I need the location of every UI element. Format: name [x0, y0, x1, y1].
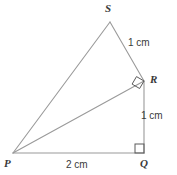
segment-PS	[13, 22, 110, 153]
measure-label-SR: 1 cm	[128, 38, 150, 48]
segment-SR	[110, 22, 144, 81]
vertex-label-S: S	[105, 3, 111, 14]
right-angle-marker-Q	[135, 144, 144, 153]
measure-label-PQ: 2 cm	[66, 160, 88, 170]
segment-PR	[13, 81, 144, 153]
vertex-label-Q: Q	[140, 158, 148, 169]
geometry-figure: S R Q P 1 cm 1 cm 2 cm	[0, 0, 177, 175]
vertex-label-R: R	[150, 74, 157, 85]
vertex-label-P: P	[4, 158, 11, 169]
measure-label-RQ: 1 cm	[141, 111, 163, 121]
diagram-canvas	[0, 0, 177, 175]
triangle-edges	[13, 22, 144, 153]
